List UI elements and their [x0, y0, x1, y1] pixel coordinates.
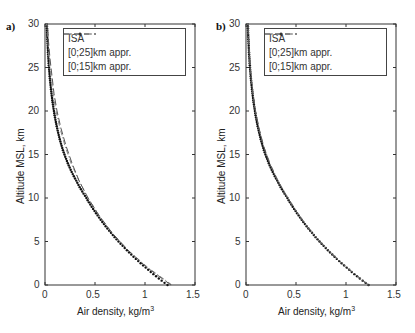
- legend-label: [0;15]km appr.: [68, 61, 131, 72]
- x-axis-label-text: Air density, kg/m: [278, 306, 351, 317]
- y-axis-label-b: Altitude MSL, km: [216, 128, 227, 204]
- y-tick-label: 30: [28, 18, 39, 29]
- y-tick-label: 5: [235, 236, 241, 247]
- y-tick-label: 10: [229, 192, 240, 203]
- x-tick-label: 1.5: [387, 289, 401, 300]
- legend-item-15km: [0;15]km appr.: [269, 59, 382, 73]
- x-tick-label: 0.5: [86, 289, 100, 300]
- x-axis-label-text: Air density, kg/m: [77, 306, 150, 317]
- dashed-line-icon: [64, 29, 96, 39]
- x-tick-label: 1: [142, 289, 148, 300]
- legend-item-25km: [0;25]km appr.: [68, 45, 181, 59]
- panel-label-b: b): [216, 20, 226, 32]
- y-tick-label: 10: [28, 192, 39, 203]
- panel-label-a: a): [6, 20, 15, 32]
- legend-b: ISA [0;25]km appr. [0;15]km appr.: [264, 28, 387, 76]
- x-tick-label: 0.5: [287, 289, 301, 300]
- x-tick-label: 0: [243, 289, 249, 300]
- legend-label: [0;15]km appr.: [269, 61, 332, 72]
- x-axis-label-sup: 3: [150, 305, 154, 312]
- y-tick-label: 5: [34, 236, 40, 247]
- y-tick-label: 20: [28, 105, 39, 116]
- dashed-line-icon: [265, 29, 297, 39]
- y-tick-label: 0: [34, 279, 40, 290]
- legend-label: [0;25]km appr.: [68, 47, 131, 58]
- x-tick-label: 0: [42, 289, 48, 300]
- y-tick-label: 15: [28, 149, 39, 160]
- x-tick-label: 1.5: [186, 289, 200, 300]
- legend-a: ISA [0;25]km appr. [0;15]km appr.: [63, 28, 186, 76]
- legend-label: [0;25]km appr.: [269, 47, 332, 58]
- x-axis-label-sup: 3: [351, 305, 355, 312]
- x-axis-label-b: Air density, kg/m3: [278, 305, 355, 317]
- chart-panel-b: b) Altitude MSL, km Air density, kg/m3 0…: [201, 0, 409, 333]
- chart-panel-a: a) Altitude MSL, km Air density, kg/m3 0…: [0, 0, 208, 333]
- legend-item-25km: [0;25]km appr.: [269, 45, 382, 59]
- y-tick-label: 25: [28, 62, 39, 73]
- y-tick-label: 30: [229, 18, 240, 29]
- y-tick-label: 25: [229, 62, 240, 73]
- y-axis-label-a: Altitude MSL, km: [15, 128, 26, 204]
- y-tick-label: 15: [229, 149, 240, 160]
- y-tick-label: 20: [229, 105, 240, 116]
- legend-item-15km: [0;15]km appr.: [68, 59, 181, 73]
- y-tick-label: 0: [235, 279, 241, 290]
- x-tick-label: 1: [343, 289, 349, 300]
- x-axis-label-a: Air density, kg/m3: [77, 305, 154, 317]
